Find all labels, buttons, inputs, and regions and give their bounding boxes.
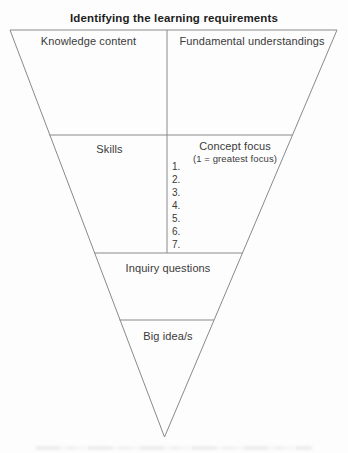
concept-rank-item: 3.	[172, 186, 212, 199]
cell-big-ideas: Big idea/s	[121, 330, 215, 343]
cropped-caption-remnant	[36, 446, 312, 450]
cell-skills: Skills	[52, 143, 167, 156]
concept-focus-title: Concept focus	[172, 140, 298, 153]
page: Identifying the learning requirements Kn…	[0, 0, 348, 453]
concept-rank-list: 1. 2. 3. 4. 5. 6. 7.	[172, 160, 212, 251]
concept-rank-item: 6.	[172, 225, 212, 238]
cell-fundamental-understandings: Fundamental understandings	[167, 35, 337, 48]
concept-rank-item: 2.	[172, 173, 212, 186]
concept-rank-item: 7.	[172, 238, 212, 251]
cell-knowledge-content: Knowledge content	[10, 35, 167, 48]
concept-rank-item: 5.	[172, 212, 212, 225]
cell-inquiry-questions: Inquiry questions	[94, 262, 242, 275]
concept-rank-item: 1.	[172, 160, 212, 173]
concept-rank-item: 4.	[172, 199, 212, 212]
